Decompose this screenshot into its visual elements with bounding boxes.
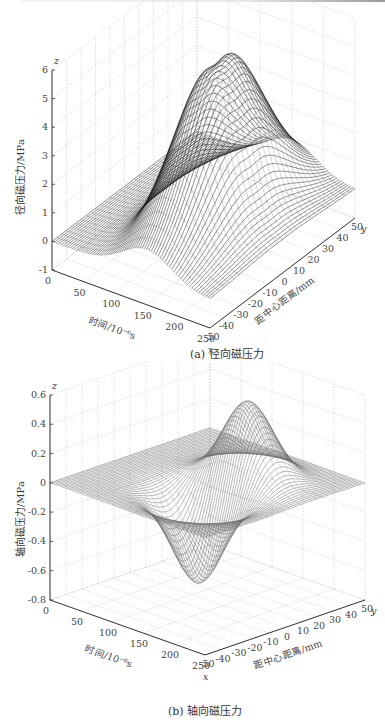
- svg-text:0: 0: [42, 235, 48, 246]
- figure-caption: (a) 径向磁压力: [190, 345, 264, 361]
- svg-text:-40: -40: [219, 320, 234, 331]
- svg-text:-40: -40: [215, 653, 230, 664]
- svg-text:z: z: [51, 380, 58, 391]
- svg-text:30: 30: [329, 614, 341, 625]
- svg-text:50: 50: [74, 287, 86, 298]
- svg-text:4: 4: [42, 121, 48, 132]
- svg-text:-1: -1: [39, 264, 48, 275]
- svg-text:40: 40: [336, 232, 348, 243]
- svg-text:6: 6: [42, 64, 48, 75]
- svg-text:-0.6: -0.6: [28, 565, 46, 576]
- svg-text:-30: -30: [233, 309, 248, 320]
- svg-text:-50: -50: [204, 331, 219, 342]
- svg-text:150: 150: [130, 638, 148, 649]
- svg-text:-0.4: -0.4: [28, 535, 46, 546]
- svg-text:30: 30: [322, 243, 334, 254]
- svg-text:0.2: 0.2: [31, 448, 46, 459]
- svg-text:-10: -10: [262, 287, 277, 298]
- z-axis-label: 径向磁压力/MPa: [12, 139, 27, 215]
- surface-plot-a: -10123456050100150200250-50-40-30-20-100…: [0, 0, 385, 362]
- svg-text:-0.2: -0.2: [28, 506, 46, 517]
- svg-text:20: 20: [307, 254, 319, 265]
- svg-text:0: 0: [45, 275, 51, 286]
- svg-text:3: 3: [42, 150, 48, 161]
- svg-text:x: x: [203, 671, 209, 682]
- svg-text:2: 2: [42, 178, 48, 189]
- svg-text:0: 0: [284, 631, 290, 642]
- svg-text:时间/10⁻⁶s: 时间/10⁻⁶s: [84, 643, 134, 670]
- svg-text:-20: -20: [248, 298, 263, 309]
- svg-text:时间/10⁻⁶s: 时间/10⁻⁶s: [87, 314, 137, 341]
- svg-text:-50: -50: [199, 658, 214, 669]
- svg-text:-30: -30: [231, 647, 246, 658]
- svg-text:-10: -10: [263, 636, 278, 647]
- svg-text:-20: -20: [247, 642, 262, 653]
- svg-text:1: 1: [42, 207, 48, 218]
- svg-text:y: y: [370, 605, 377, 616]
- svg-text:10: 10: [297, 625, 309, 636]
- chart-axial-magnetic-pressure: -0.8-0.6-0.4-0.200.20.40.605010015020025…: [0, 362, 385, 724]
- svg-text:20: 20: [313, 620, 325, 631]
- svg-text:200: 200: [161, 649, 179, 660]
- svg-text:0: 0: [43, 605, 49, 616]
- z-axis-label: 轴向磁压力/MPa: [12, 481, 27, 557]
- svg-text:10: 10: [293, 265, 305, 276]
- svg-text:0.4: 0.4: [31, 418, 46, 429]
- svg-text:0: 0: [281, 276, 287, 287]
- svg-text:z: z: [53, 55, 60, 66]
- svg-text:0.6: 0.6: [31, 389, 46, 400]
- svg-text:50: 50: [71, 616, 83, 627]
- svg-text:y: y: [360, 223, 367, 234]
- svg-text:100: 100: [102, 298, 120, 309]
- svg-text:-0.8: -0.8: [28, 594, 46, 605]
- svg-text:200: 200: [165, 321, 183, 332]
- svg-text:100: 100: [99, 627, 117, 638]
- chart-radial-magnetic-pressure: -10123456050100150200250-50-40-30-20-100…: [0, 0, 385, 362]
- svg-text:40: 40: [345, 609, 357, 620]
- svg-text:0: 0: [40, 477, 46, 488]
- svg-text:5: 5: [42, 93, 48, 104]
- svg-text:150: 150: [134, 310, 152, 321]
- surface-plot-b: -0.8-0.6-0.4-0.200.20.40.605010015020025…: [0, 362, 385, 724]
- figure-caption: (b) 轴向磁压力: [168, 702, 242, 718]
